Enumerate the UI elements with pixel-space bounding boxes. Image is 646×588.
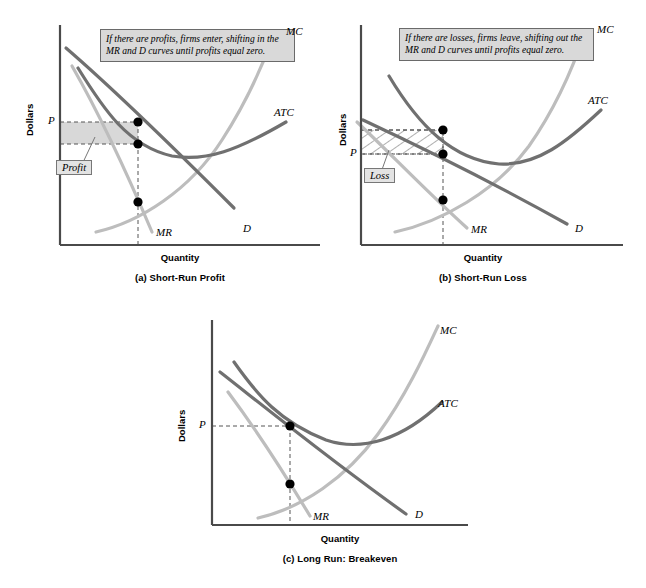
panel-a-note-box: If there are profits, firms enter, shift… — [100, 29, 295, 62]
panel-a-caption: (a) Short-Run Profit — [100, 272, 260, 283]
panel-b-mc-label: MC — [597, 23, 614, 35]
atc-curve — [234, 362, 442, 444]
panel-a-y-axis-label: Dollars — [24, 104, 35, 136]
panel-short-run-profit: Dollars P If there are profits, firms en… — [0, 0, 323, 294]
panel-a-mr-label: MR — [156, 226, 172, 238]
panel-b-atc-label: ATC — [588, 94, 608, 106]
breakeven-point-dot — [285, 421, 294, 430]
panel-short-run-loss: Dollars P If there are losses, firms lea… — [323, 0, 646, 294]
panel-c-mc-label: MC — [440, 324, 457, 336]
demand-curve — [220, 372, 406, 514]
panel-b-demand-label: D — [575, 222, 583, 234]
panel-b-note-box: If there are losses, firms leave, shifti… — [399, 28, 594, 61]
panel-long-run-breakeven: Dollars P MC ATC MR D Quantity (c) Long … — [150, 300, 500, 588]
panel-a-price-label: P — [48, 114, 55, 126]
panel-c-demand-label: D — [415, 508, 423, 520]
mr-mc-point-dot — [133, 197, 142, 206]
economics-figure: Dollars P If there are profits, firms en… — [0, 0, 646, 588]
panel-b-y-axis-label: Dollars — [337, 114, 348, 146]
cost-point-dot — [133, 139, 142, 148]
panel-c-price-label: P — [199, 418, 206, 430]
panel-b-caption: (b) Short-Run Loss — [403, 272, 563, 283]
panel-a-mc-label: MC — [286, 25, 303, 37]
price-point-dot — [438, 149, 447, 158]
panel-b-mr-label: MR — [471, 223, 487, 235]
mr-mc-point-dot — [438, 195, 447, 204]
panel-c-caption: (c) Long Run: Breakeven — [258, 553, 422, 564]
panel-c-y-axis-label: Dollars — [176, 410, 187, 442]
price-point-dot — [133, 117, 142, 126]
panel-c-atc-label: ATC — [438, 397, 458, 409]
cost-point-dot — [438, 125, 447, 134]
panel-a-x-axis-label: Quantity — [120, 252, 240, 263]
panel-c-x-axis-label: Quantity — [280, 533, 400, 544]
panel-b-loss-tag: Loss — [364, 168, 395, 183]
panel-a-atc-label: ATC — [274, 106, 294, 118]
mr-mc-point-dot — [285, 479, 294, 488]
panel-a-demand-label: D — [243, 222, 251, 234]
panel-a-profit-tag: Profit — [56, 160, 92, 175]
panel-b-price-label: P — [350, 146, 357, 158]
loss-region — [361, 130, 443, 154]
panel-b-x-axis-label: Quantity — [423, 252, 543, 263]
panel-c-mr-label: MR — [313, 510, 329, 522]
